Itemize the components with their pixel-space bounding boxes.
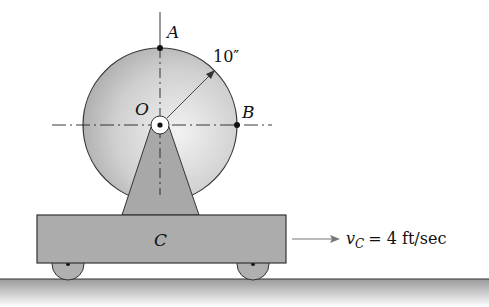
label-point-b: B [241, 102, 255, 122]
velocity-label: vC= 4 ft/sec [346, 229, 446, 251]
label-center-o: O [135, 99, 149, 119]
velocity-arrow [292, 235, 340, 243]
center-point [157, 122, 162, 127]
velocity-subscript: C [355, 237, 364, 251]
point-b-marker [234, 122, 240, 128]
label-cart-c: C [154, 230, 167, 250]
point-a-marker [157, 45, 163, 51]
velocity-symbol: v [346, 229, 355, 248]
velocity-value: = 4 ft/sec [368, 229, 446, 248]
ground [0, 279, 489, 307]
label-radius: 10″ [213, 47, 239, 66]
diagram-canvas: A B O C 10″ vC= 4 ft/sec [0, 0, 489, 307]
label-point-a: A [165, 22, 179, 42]
